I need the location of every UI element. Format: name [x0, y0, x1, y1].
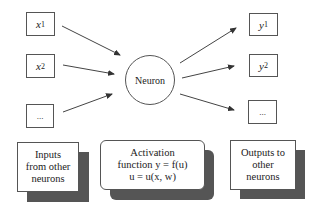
- input-subscript: 2: [41, 62, 45, 71]
- output-subscript: 2: [264, 61, 268, 70]
- arrow-neuron-to-y2: [182, 66, 234, 78]
- caption-line: Activation: [118, 147, 188, 159]
- input-node-x2: x2: [26, 54, 55, 78]
- caption-line: from other: [26, 161, 71, 173]
- caption-line: Inputs: [26, 149, 71, 161]
- caption-line: u = u(x, w): [118, 171, 188, 183]
- arrow-neuron-to-y1: [180, 28, 236, 63]
- input-node-x1: x1: [26, 12, 55, 36]
- arrow-x3-to-neuron: [63, 94, 112, 112]
- input-node-more: ...: [26, 104, 54, 128]
- neuron-node: Neuron: [125, 55, 175, 105]
- arrow-neuron-to-y3: [180, 94, 234, 110]
- arrow-x2-to-neuron: [63, 65, 114, 74]
- output-node-more: ...: [248, 100, 277, 124]
- caption-line: Outputs to: [241, 147, 285, 159]
- arrow-x1-to-neuron: [62, 26, 120, 55]
- caption-line: neurons: [26, 173, 71, 185]
- caption-line: neurons: [241, 171, 285, 183]
- activation-caption: Activation function y = f(u) u = u(x, w): [100, 140, 205, 190]
- output-node-y1: y1: [249, 13, 278, 36]
- caption-line: function y = f(u): [118, 159, 188, 171]
- outputs-caption: Outputs to other neurons: [230, 140, 296, 190]
- neuron-label: Neuron: [135, 75, 165, 86]
- caption-line: other: [241, 159, 285, 171]
- inputs-caption: Inputs from other neurons: [17, 142, 79, 192]
- input-subscript: 1: [41, 20, 45, 29]
- output-symbol: ...: [259, 107, 266, 117]
- input-symbol: ...: [37, 111, 44, 121]
- output-node-y2: y2: [249, 54, 278, 77]
- output-subscript: 1: [264, 20, 268, 29]
